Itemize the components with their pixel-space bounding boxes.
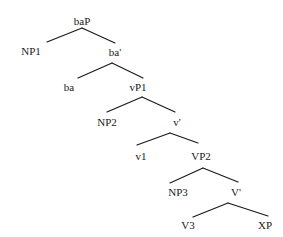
edge-VP2-V-bar	[203, 168, 238, 182]
node-V3: V3	[181, 219, 194, 231]
syntax-tree: baP NP1 ba' ba vP1 NP2 v' v1 VP2 NP3 V' …	[0, 0, 283, 237]
node-ba: ba	[64, 81, 74, 93]
edge-vP1-v-bar	[142, 97, 175, 112]
edge-VP2-NP3	[170, 168, 203, 183]
node-ba-bar: ba'	[109, 46, 121, 58]
edge-v-bar-VP2	[170, 133, 198, 143]
node-baP: baP	[74, 15, 91, 27]
tree-edges	[0, 0, 283, 237]
edge-V-bar-XP	[228, 203, 268, 216]
node-v1: v1	[136, 150, 147, 162]
edge-V-bar-V3	[193, 203, 228, 217]
node-v-bar: v'	[173, 116, 180, 128]
node-VP2: VP2	[191, 150, 211, 162]
node-NP3: NP3	[168, 186, 188, 198]
edge-baP-NP1	[47, 28, 82, 42]
edge-baP-ba-bar	[82, 28, 115, 43]
edge-ba-bar-ba	[78, 63, 112, 78]
edge-vP1-NP2	[107, 97, 142, 112]
node-V-bar: V'	[231, 186, 241, 198]
node-NP2: NP2	[97, 116, 117, 128]
edge-ba-bar-vP1	[112, 63, 143, 78]
node-vP1: vP1	[129, 81, 146, 93]
node-NP1: NP1	[21, 45, 41, 57]
node-XP: XP	[258, 219, 272, 231]
edge-v-bar-v1	[137, 133, 170, 145]
